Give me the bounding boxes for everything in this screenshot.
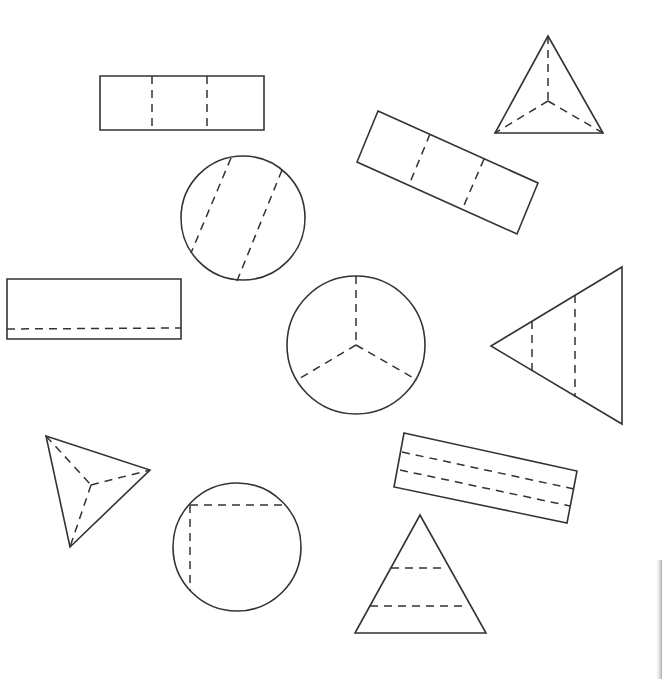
triangle-outline [355,515,486,633]
shape-circle-bottom [173,483,301,611]
shape-rect-left [7,279,181,339]
dashed-division-line [402,452,574,489]
triangle-outline [491,267,622,424]
shape-triangle-top-right [495,36,603,133]
dashed-division-line [400,470,570,506]
dashed-division-line [7,328,181,329]
shape-rect-bottom-right [394,433,577,523]
triangle-outline [495,36,603,133]
rectangle-outline [7,279,181,339]
dashed-division-line [356,345,417,380]
shape-triangle-bottom [355,515,486,633]
dashed-division-line [237,170,282,281]
triangle-outline [46,436,150,547]
shape-triangle-right [491,267,622,424]
shape-layer [7,36,622,633]
dashed-division-line [191,158,231,253]
dashed-division-line [462,159,484,210]
circle-outline [173,483,301,611]
shape-circle-center [287,276,425,414]
shape-triangle-bottom-left [46,436,150,547]
dashed-division-line [409,134,430,185]
rectangle-outline [394,433,577,523]
shape-rect-rotated [357,111,538,234]
shapes-diagram [0,0,662,679]
shape-circle-diagonal [181,156,305,281]
circle-outline [181,156,305,280]
page-edge-shadow [655,560,662,679]
rectangle-outline [100,76,264,130]
rectangle-outline [357,111,538,234]
dashed-division-line [297,345,356,380]
shape-rect-top [100,76,264,130]
